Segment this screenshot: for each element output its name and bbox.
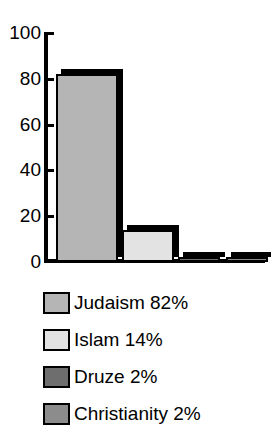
y-axis-tick-label: 20 (3, 206, 41, 225)
bar-face (122, 230, 174, 262)
plot-area: 020406080100 (0, 0, 271, 275)
legend-label: Judaism 82% (74, 292, 188, 314)
bar (178, 257, 220, 262)
bar-chart-figure: Religion 020406080100 Judaism 82%Islam 1… (0, 0, 271, 440)
legend-swatch (43, 329, 70, 351)
legend-label: Christianity 2% (74, 403, 201, 425)
legend-item: Druze 2% (43, 358, 271, 395)
legend-item: Islam 14% (43, 321, 271, 358)
bar-face (226, 257, 268, 262)
legend-swatch (43, 366, 70, 388)
legend-label: Druze 2% (74, 366, 157, 388)
legend-label: Islam 14% (74, 329, 163, 351)
bar (226, 257, 268, 262)
y-axis-tick-label: 40 (3, 160, 41, 179)
bar-face (178, 257, 220, 262)
legend-swatch (43, 292, 70, 314)
chart-legend: Judaism 82%Islam 14%Druze 2%Christianity… (43, 284, 271, 432)
bar-face (56, 74, 118, 262)
y-axis-tick-labels: 020406080100 (0, 0, 41, 275)
bar (56, 74, 118, 262)
y-axis-tick-label: 80 (3, 69, 41, 88)
y-axis-tick-label: 100 (3, 23, 41, 42)
y-axis-tick-label: 0 (3, 252, 41, 271)
bar-series (48, 33, 265, 262)
legend-item: Judaism 82% (43, 284, 271, 321)
legend-swatch (43, 403, 70, 425)
legend-item: Christianity 2% (43, 395, 271, 432)
y-axis-tick-label: 60 (3, 115, 41, 134)
bar (122, 230, 174, 262)
